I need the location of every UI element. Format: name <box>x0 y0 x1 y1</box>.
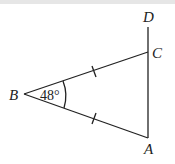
point-label-d: D <box>142 9 154 25</box>
triangle-diagram: D C B A 48° <box>0 0 175 164</box>
point-label-a: A <box>143 141 154 157</box>
point-label-b: B <box>9 87 18 103</box>
diagram-canvas: D C B A 48° <box>0 0 175 164</box>
angle-arc <box>63 81 66 108</box>
angle-label: 48° <box>40 88 60 103</box>
point-label-c: C <box>152 45 163 61</box>
tick-mark-bc <box>92 66 96 77</box>
